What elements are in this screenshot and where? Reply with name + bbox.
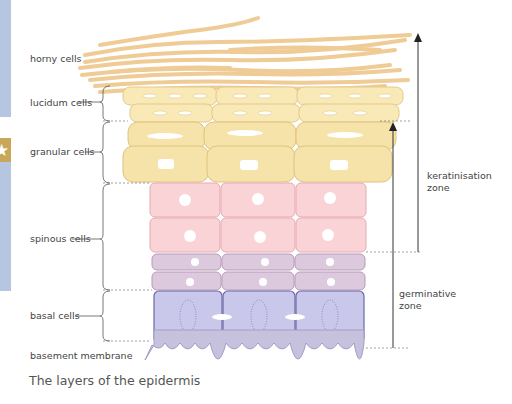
granular-cells-layer [123, 122, 396, 182]
layer-brackets [72, 86, 110, 341]
figure-caption: The layers of the epidermis [29, 373, 200, 388]
basement-membrane-shape [145, 330, 364, 360]
label-granular-cells: granular cells [30, 146, 94, 157]
label-basement-membrane: basement membrane [30, 350, 133, 361]
keratinisation-zone-label: keratinisation zone [427, 170, 492, 194]
label-basal-cells: basal cells [30, 310, 80, 321]
germinative-zone-label: germinative zone [399, 288, 456, 312]
label-horny-cells: horny cells [30, 53, 82, 64]
label-spinous-cells: spinous cells [30, 233, 91, 244]
horny-cells-layer [80, 18, 410, 92]
lucidum-cells-layer [123, 87, 403, 122]
keratinisation-arrowhead-icon [414, 33, 422, 42]
label-lucidum-cells: lucidum cells [30, 97, 92, 108]
